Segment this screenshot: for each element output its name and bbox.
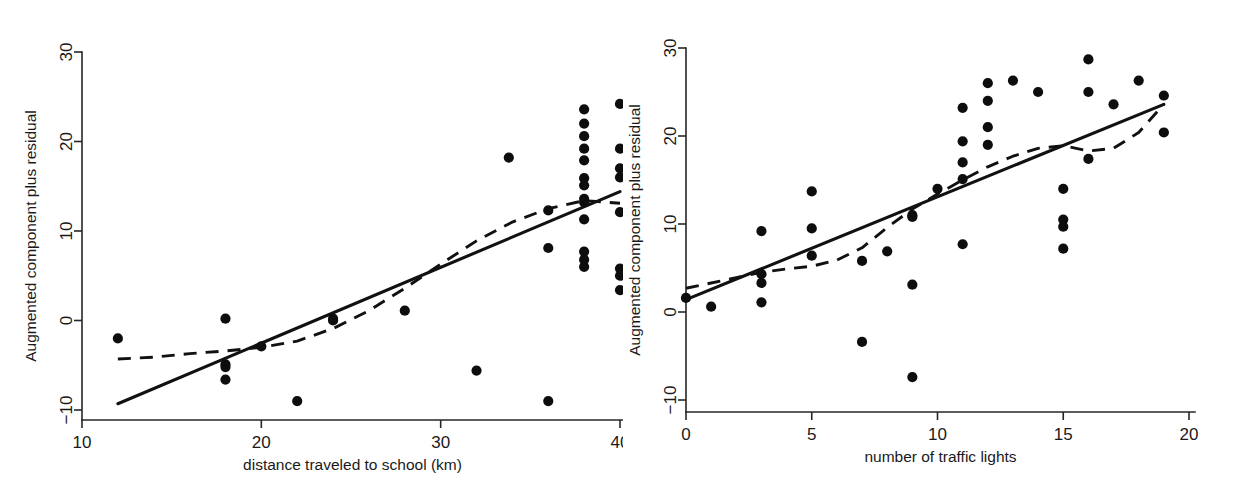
- data-point: [932, 184, 942, 194]
- y-axis-title: Augmented component plus residual: [22, 110, 39, 362]
- data-point: [615, 163, 623, 173]
- x-tick-label: 15: [1054, 425, 1073, 444]
- panel-distance: −10010203010203040distance traveled to s…: [0, 0, 623, 492]
- y-tick-label: −10: [57, 396, 76, 425]
- data-point: [807, 223, 817, 233]
- data-point: [1083, 154, 1093, 164]
- y-tick-label: 10: [57, 222, 76, 241]
- data-point: [857, 256, 867, 266]
- data-point: [681, 293, 691, 303]
- y-tick-label: −10: [661, 386, 680, 415]
- data-point: [907, 280, 917, 290]
- data-point: [1159, 127, 1169, 137]
- data-point: [1033, 87, 1043, 97]
- data-point: [958, 103, 968, 113]
- data-point: [615, 271, 623, 281]
- data-point: [958, 136, 968, 146]
- data-point: [579, 180, 589, 190]
- data-point: [958, 174, 968, 184]
- data-point: [579, 262, 589, 272]
- data-point: [1108, 99, 1118, 109]
- y-tick-label: 30: [661, 39, 680, 58]
- data-point: [907, 372, 917, 382]
- x-tick-label: 10: [73, 433, 92, 452]
- data-point: [958, 157, 968, 167]
- panel-traffic-lights-svg: −10010203005101520number of traffic ligh…: [623, 0, 1247, 492]
- data-point: [220, 314, 230, 324]
- data-point: [882, 246, 892, 256]
- data-point: [292, 396, 302, 406]
- data-point: [756, 269, 766, 279]
- data-point: [756, 278, 766, 288]
- x-tick-label: 5: [807, 425, 816, 444]
- x-tick-label: 20: [1180, 425, 1199, 444]
- data-point: [579, 119, 589, 129]
- x-tick-label: 20: [252, 433, 271, 452]
- data-point: [756, 297, 766, 307]
- y-tick-label: 0: [661, 307, 680, 316]
- data-point: [256, 341, 266, 351]
- x-axis-title: distance traveled to school (km): [243, 456, 462, 473]
- y-tick-label: 30: [57, 43, 76, 62]
- data-point: [1083, 87, 1093, 97]
- data-point: [983, 122, 993, 132]
- data-point: [1159, 90, 1169, 100]
- data-point: [328, 315, 338, 325]
- data-point: [983, 78, 993, 88]
- data-point: [543, 205, 553, 215]
- data-point: [579, 214, 589, 224]
- data-point: [807, 251, 817, 261]
- data-point: [983, 140, 993, 150]
- y-tick-label: 20: [57, 132, 76, 151]
- x-tick-label: 30: [431, 433, 450, 452]
- data-point: [579, 155, 589, 165]
- x-tick-label: 0: [681, 425, 690, 444]
- data-point: [579, 144, 589, 154]
- data-point: [958, 239, 968, 249]
- data-point: [807, 186, 817, 196]
- data-point: [615, 99, 623, 109]
- x-tick-label: 40: [611, 433, 623, 452]
- data-point: [579, 197, 589, 207]
- data-point: [1008, 75, 1018, 85]
- data-point: [113, 333, 123, 343]
- data-point: [615, 207, 623, 217]
- data-point: [1134, 75, 1144, 85]
- linear-fit-line: [118, 192, 620, 404]
- data-point: [543, 396, 553, 406]
- y-axis-title: Augmented component plus residual: [626, 104, 643, 356]
- panel-distance-svg: −10010203010203040distance traveled to s…: [0, 0, 623, 492]
- y-tick-label: 0: [57, 316, 76, 325]
- x-tick-label: 10: [928, 425, 947, 444]
- data-point: [504, 153, 514, 163]
- data-point: [1058, 244, 1068, 254]
- data-point: [756, 226, 766, 236]
- data-point: [220, 374, 230, 384]
- data-point: [615, 172, 623, 182]
- panel-traffic-lights: −10010203005101520number of traffic ligh…: [623, 0, 1247, 492]
- data-point: [706, 302, 716, 312]
- linear-fit-line: [686, 104, 1164, 299]
- data-point: [471, 366, 481, 376]
- data-point: [857, 337, 867, 347]
- data-point: [579, 131, 589, 141]
- data-point: [983, 96, 993, 106]
- lowess-smooth-line: [686, 104, 1164, 288]
- data-point: [907, 212, 917, 222]
- data-point: [579, 104, 589, 114]
- plot-area-left: −10010203010203040distance traveled to s…: [22, 43, 623, 473]
- y-tick-label: 10: [661, 215, 680, 234]
- data-point: [1058, 184, 1068, 194]
- data-point: [1058, 222, 1068, 232]
- data-point: [1083, 54, 1093, 64]
- data-point: [543, 243, 553, 253]
- data-point: [400, 306, 410, 316]
- data-point: [615, 285, 623, 295]
- acpr-figure: −10010203010203040distance traveled to s…: [0, 0, 1247, 492]
- plot-area-right: −10010203005101520number of traffic ligh…: [626, 39, 1198, 465]
- data-point: [220, 362, 230, 372]
- y-tick-label: 20: [661, 127, 680, 146]
- x-axis-title: number of traffic lights: [864, 448, 1016, 465]
- data-point: [615, 144, 623, 154]
